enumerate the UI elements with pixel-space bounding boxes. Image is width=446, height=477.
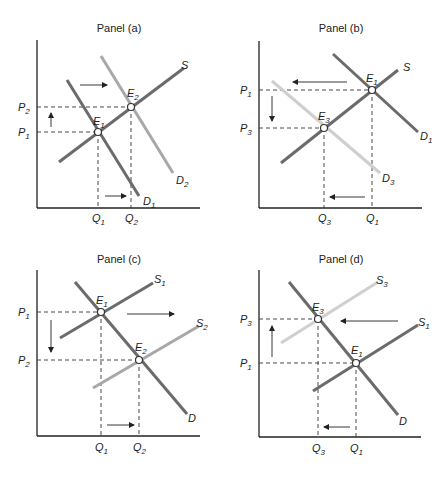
label-e1: E1 — [93, 115, 105, 130]
supply-curve-s2 — [93, 326, 199, 388]
label-q2: Q2 — [133, 441, 147, 456]
label-s3: S3 — [376, 274, 388, 289]
label-q1: Q1 — [95, 441, 108, 456]
panel-c-title: Panel (c) — [97, 253, 141, 265]
label-q1: Q1 — [92, 212, 105, 227]
panel-a-title: Panel (a) — [97, 22, 142, 34]
label-p1: P1 — [18, 306, 30, 321]
equilibrium-e3 — [321, 125, 328, 132]
label-s: S — [181, 59, 189, 71]
label-s2: S2 — [196, 317, 208, 332]
label-e1: E1 — [351, 344, 363, 359]
supply-curve-s1 — [60, 283, 153, 338]
label-q1: Q1 — [350, 442, 363, 457]
label-s: S — [403, 61, 411, 73]
label-d: D — [399, 415, 407, 427]
equilibrium-e1 — [369, 87, 376, 94]
demand-curve-d — [75, 282, 187, 414]
panel-a: Panel (a) S D2 D1 E1 E2 P2 P1 Q1 Q2 — [18, 22, 200, 227]
demand-curve-d2 — [101, 56, 173, 173]
equilibrium-e3 — [315, 316, 322, 323]
label-d2: D2 — [176, 174, 189, 189]
label-d1: D1 — [420, 130, 432, 145]
equilibrium-e2 — [128, 104, 135, 111]
equilibrium-e1 — [98, 309, 105, 316]
panel-c: Panel (c) S1 S2 D E1 E2 P1 P2 Q1 Q2 — [18, 253, 208, 456]
supply-curve-s — [59, 68, 184, 162]
label-p1: P1 — [240, 357, 252, 372]
label-p2: P2 — [18, 101, 30, 116]
panel-d: Panel (d) S3 S1 D E3 E1 P3 P1 Q3 Q1 — [240, 253, 430, 457]
equilibrium-e1 — [353, 360, 360, 367]
label-s1: S1 — [154, 273, 166, 288]
equilibrium-e2 — [136, 357, 143, 364]
label-q2: Q2 — [125, 212, 139, 227]
label-p3: P3 — [240, 313, 252, 328]
label-q1: Q1 — [366, 212, 379, 227]
panel-d-title: Panel (d) — [319, 253, 364, 265]
supply-demand-figure: Panel (a) S D2 D1 E1 E2 P2 P1 Q1 Q2 Pane… — [0, 0, 446, 477]
supply-curve-s1 — [313, 325, 418, 391]
label-p3: P3 — [240, 122, 252, 137]
label-p1: P1 — [18, 126, 30, 141]
label-p2: P2 — [18, 354, 30, 369]
label-s1: S1 — [418, 316, 430, 331]
label-q3: Q3 — [318, 212, 332, 227]
label-d: D — [188, 412, 196, 424]
supply-curve-s — [281, 70, 398, 163]
panel-b: Panel (b) S D1 D3 E1 E3 P1 P3 Q3 Q1 — [240, 22, 432, 227]
label-q3: Q3 — [312, 442, 326, 457]
panel-b-title: Panel (b) — [319, 22, 364, 34]
label-d3: D3 — [382, 172, 395, 187]
label-p1: P1 — [240, 84, 252, 99]
